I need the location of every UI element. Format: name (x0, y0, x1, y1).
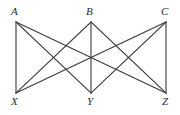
edge-layer (16, 22, 166, 93)
vertex-label-b: B (86, 6, 93, 17)
vertex-label-y: Y (87, 96, 93, 107)
vertex-label-a: A (11, 6, 18, 17)
vertex-label-x: X (11, 96, 18, 107)
graph-figure: ABCXYZ (0, 0, 180, 115)
vertex-label-z: Z (162, 96, 168, 107)
vertex-label-c: C (161, 6, 168, 17)
